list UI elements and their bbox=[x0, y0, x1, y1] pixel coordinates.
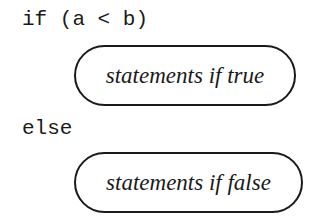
true-statements-label: statements if true bbox=[106, 63, 264, 89]
else-keyword-code: else bbox=[22, 118, 72, 139]
false-statements-label: statements if false bbox=[106, 170, 271, 196]
true-statements-block: statements if true bbox=[74, 45, 296, 106]
false-statements-block: statements if false bbox=[74, 152, 303, 213]
if-condition-code: if (a < b) bbox=[22, 9, 148, 30]
